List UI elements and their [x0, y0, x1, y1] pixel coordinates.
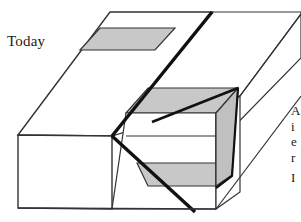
- footwall-front-face: [18, 135, 112, 209]
- right-caption-line-4: r: [291, 150, 301, 166]
- label-today: Today: [7, 33, 45, 50]
- right-caption-line-3: e: [291, 134, 301, 150]
- front-face-marker-bed: [137, 163, 216, 186]
- hangingwall-front-face: [112, 113, 216, 209]
- right-caption-block-2: I: [291, 170, 301, 186]
- right-caption-block: A i e r: [291, 103, 301, 165]
- block-bottom-edge: [18, 208, 216, 209]
- right-caption-line-1: A: [291, 103, 301, 119]
- figure-canvas: Today A i e r I: [0, 0, 301, 222]
- right-caption-line-5: I: [291, 170, 301, 186]
- right-caption-line-2: i: [291, 119, 301, 135]
